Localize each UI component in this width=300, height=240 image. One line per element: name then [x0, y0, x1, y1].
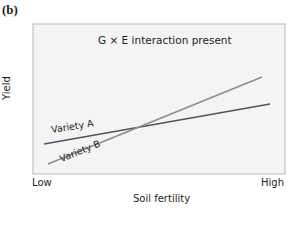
x-axis-label: Soil fertility [133, 193, 190, 204]
interaction-annotation: G × E interaction present [98, 34, 232, 46]
x-tick-high: High [261, 177, 284, 188]
x-tick-low: Low [32, 177, 52, 188]
y-axis-label: Yield [1, 76, 12, 100]
